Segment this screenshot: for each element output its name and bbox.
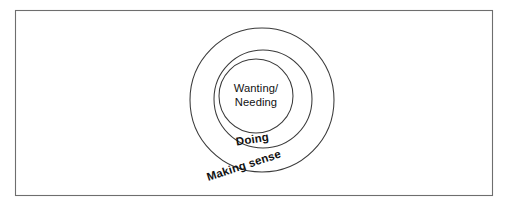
inner-circle-label-line1: Wanting/ xyxy=(234,82,279,94)
concentric-circles-diagram: Wanting/ Needing Doing Making sense xyxy=(0,0,508,206)
diagram-root: Wanting/ Needing Doing Making sense xyxy=(0,0,508,206)
inner-circle-label-line2: Needing xyxy=(235,96,277,108)
